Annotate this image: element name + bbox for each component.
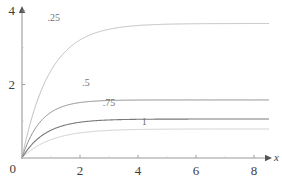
x-axis-tick-label-8: 8 xyxy=(0,164,282,177)
chart-figure: 4 2 0 2 4 6 8 x .25 .5 .75 1 xyxy=(0,0,282,181)
data-curve-1 xyxy=(22,129,269,158)
y-axis-tick-label-4: 4 xyxy=(0,4,15,17)
tick-marks-group xyxy=(22,11,254,158)
curve-label-025: .25 xyxy=(48,13,61,23)
curve-label-1: 1 xyxy=(142,117,147,127)
curve-label-05: .5 xyxy=(82,78,90,88)
curve-label-075: .75 xyxy=(103,98,116,108)
y-axis-tick-label-2: 2 xyxy=(0,78,15,91)
x-axis-label: x xyxy=(274,152,279,163)
data-curve-25 xyxy=(22,24,269,158)
data-curves-group xyxy=(22,24,269,158)
chart-plot-area xyxy=(0,0,282,181)
